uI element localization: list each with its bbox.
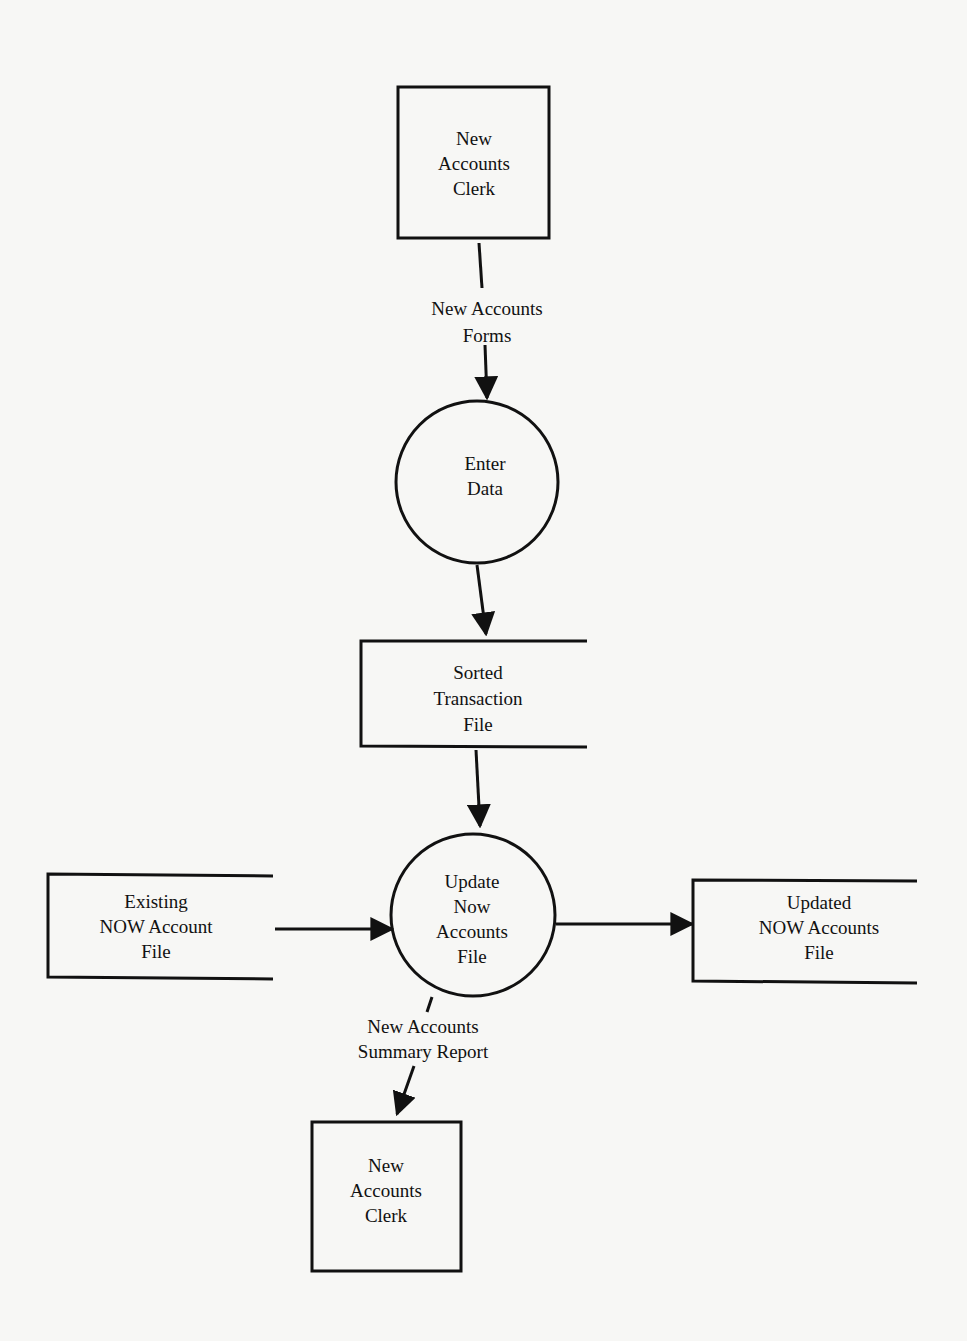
store-label-sorted-transaction-file: Sorted Transaction File xyxy=(433,660,522,738)
label-line: Accounts xyxy=(350,1178,422,1203)
flow-arrow-summary xyxy=(397,1066,414,1114)
entity-label-clerk-top: New Accounts Clerk xyxy=(438,126,510,201)
entity-label-clerk-bottom: New Accounts Clerk xyxy=(350,1153,422,1228)
label-line: Update xyxy=(436,869,508,894)
label-line: Existing xyxy=(99,889,212,914)
flow-arrow-forms xyxy=(485,345,487,398)
label-line: Enter xyxy=(464,451,505,476)
flow-label-new-accounts-forms: New Accounts Forms xyxy=(431,295,542,349)
process-label-enter-data: Enter Data xyxy=(464,451,505,501)
label-line: New Accounts xyxy=(358,1014,488,1039)
label-line: Accounts xyxy=(436,919,508,944)
label-line: Now xyxy=(436,894,508,919)
label-line: New Accounts xyxy=(431,295,542,322)
label-line: Updated xyxy=(759,890,880,915)
label-line: File xyxy=(759,940,880,965)
process-label-update-now-accounts-file: Update Now Accounts File xyxy=(436,869,508,969)
label-line: Data xyxy=(464,476,505,501)
label-line: NOW Account xyxy=(99,914,212,939)
flow-arrow-to-update xyxy=(476,750,480,826)
label-line: File xyxy=(436,944,508,969)
store-label-updated-now-accounts-file: Updated NOW Accounts File xyxy=(759,890,880,965)
flow-line-summary-upper xyxy=(427,997,432,1012)
label-line: Forms xyxy=(431,322,542,349)
label-line: NOW Accounts xyxy=(759,915,880,940)
label-line: File xyxy=(99,939,212,964)
label-line: Accounts xyxy=(438,151,510,176)
store-label-existing-now-account-file: Existing NOW Account File xyxy=(99,889,212,964)
label-line: Summary Report xyxy=(358,1039,488,1064)
label-line: Sorted xyxy=(433,660,522,686)
label-line: New xyxy=(438,126,510,151)
label-line: Clerk xyxy=(350,1203,422,1228)
label-line: New xyxy=(350,1153,422,1178)
flow-arrow-to-sorted xyxy=(477,565,486,634)
label-line: File xyxy=(433,712,522,738)
label-line: Clerk xyxy=(438,176,510,201)
flow-line-forms-upper xyxy=(479,243,482,288)
label-line: Transaction xyxy=(433,686,522,712)
flow-label-new-accounts-summary-report: New Accounts Summary Report xyxy=(358,1014,488,1064)
